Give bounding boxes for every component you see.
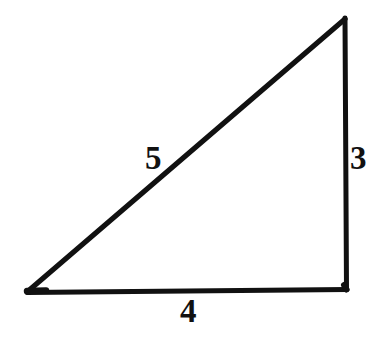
- side-label-4: 4: [180, 295, 197, 328]
- bottom-right-vertex-ink: [344, 285, 347, 290]
- triangle-hypotenuse-stroke: [27, 19, 345, 292]
- side-label-3: 3: [350, 142, 367, 175]
- bottom-left-vertex-ink: [27, 291, 46, 292]
- side-label-5: 5: [145, 142, 162, 175]
- figure-canvas: 5 3 4: [0, 0, 391, 344]
- triangle-vertical-leg-stroke: [345, 18, 347, 289]
